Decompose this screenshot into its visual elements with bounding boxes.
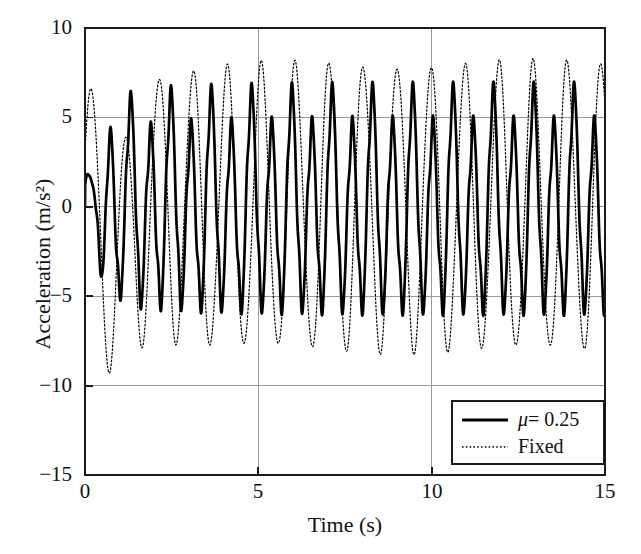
x-tick-label-5: 5 — [228, 479, 288, 504]
y-tick-label-5: 5 — [12, 104, 72, 129]
legend-mu-value: = 0.25 — [528, 408, 579, 430]
y-tick-label-10: 10 — [12, 15, 72, 40]
y-tick-label-0: 0 — [12, 194, 72, 219]
legend-label-mu: μ= 0.25 — [518, 408, 579, 431]
legend-label-fixed: Fixed — [518, 435, 564, 458]
x-tick-label-15: 15 — [575, 479, 635, 504]
x-tick-label-0: 0 — [55, 479, 115, 504]
plot-canvas — [0, 0, 641, 554]
y-tick-label-minus5: −5 — [12, 283, 72, 308]
x-tick-label-10: 10 — [402, 479, 462, 504]
x-axis-title: Time (s) — [85, 512, 605, 538]
legend-mu-symbol: μ — [518, 408, 528, 430]
acceleration-time-history-figure: Acceleration (m/s²) Time (s) 10 5 0 −5 −… — [0, 0, 641, 554]
y-tick-label-minus10: −10 — [12, 373, 72, 398]
y-axis-title: Acceleration (m/s²) — [30, 124, 56, 404]
